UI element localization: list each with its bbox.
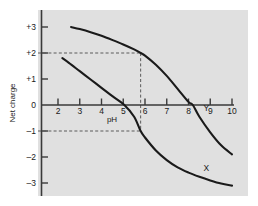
y-tick-label-0: 0: [31, 100, 36, 110]
y-tick-label-+2: +2: [26, 48, 36, 58]
y-tick-label--1: –1: [27, 126, 37, 136]
x-tick-label-3: 3: [77, 106, 82, 116]
y-tick-label--2: –2: [27, 152, 37, 162]
y-tick-label-+3: +3: [26, 22, 36, 32]
x-tick-label-8: 8: [186, 106, 191, 116]
x-tick-label-2: 2: [56, 106, 61, 116]
x-tick-label-7: 7: [164, 106, 169, 116]
x-tick-label-10: 10: [227, 106, 237, 116]
curve-label-x: X: [203, 163, 209, 173]
y-axis-tick-labels: +3+2+10–1–2–3: [26, 22, 36, 188]
x-tick-label-6: 6: [143, 106, 148, 116]
plot-area-background: [38, 10, 248, 196]
y-tick-label-+1: +1: [26, 74, 36, 84]
y-tick-label--3: –3: [27, 178, 37, 188]
chart-canvas: +3+2+10–1–2–3 2345678910 pH Net charge Y…: [0, 0, 258, 206]
x-axis-label: pH: [107, 115, 117, 124]
curve-label-y: Y: [203, 103, 209, 113]
x-tick-label-5: 5: [121, 106, 126, 116]
net-charge-vs-ph-chart: +3+2+10–1–2–3 2345678910 pH Net charge Y…: [0, 0, 258, 206]
y-axis-label: Net charge: [8, 83, 17, 123]
x-tick-label-4: 4: [99, 106, 104, 116]
